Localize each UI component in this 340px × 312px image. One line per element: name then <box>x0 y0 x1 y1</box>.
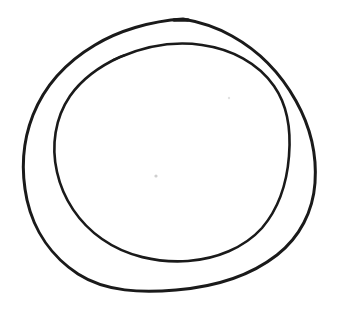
drawing-canvas <box>0 0 340 312</box>
paper-speck <box>228 97 230 99</box>
hand-drawn-double-circle <box>0 0 340 312</box>
paper-speck <box>154 174 157 177</box>
